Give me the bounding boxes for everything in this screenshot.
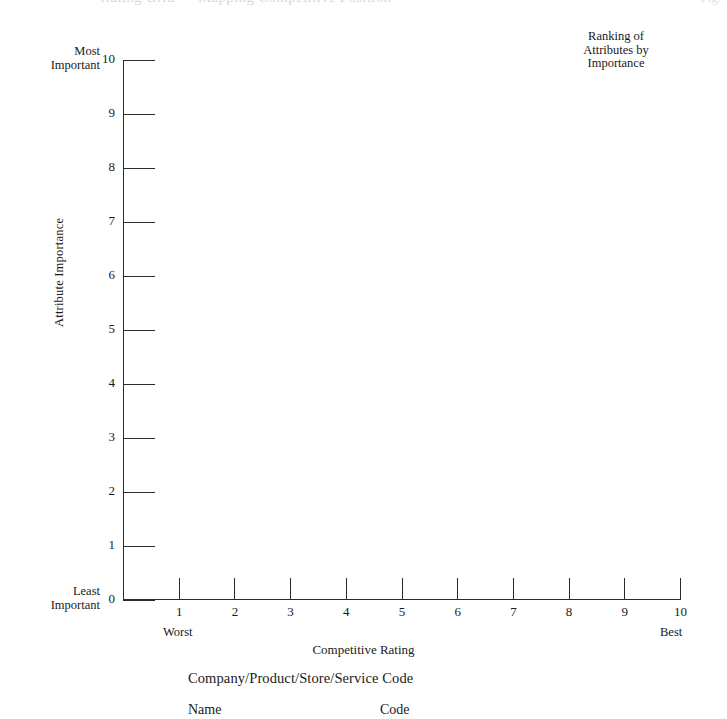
y-tick-label-3: 3 <box>109 429 116 445</box>
code-table-heading: Company/Product/Store/Service Code <box>188 670 413 687</box>
y-caption-least-line-1: Least <box>0 584 100 598</box>
x-axis-title: Competitive Rating <box>0 642 727 658</box>
code-table-column-code: Code <box>380 702 410 718</box>
y-tick-4: 4 <box>123 384 155 385</box>
y-tick-10: 10 <box>123 60 155 61</box>
worksheet-page: Rating Grid — Mapping Competitive Positi… <box>0 0 727 719</box>
y-caption-most-line-2: Important <box>0 58 100 72</box>
y-tick-2: 2 <box>123 492 155 493</box>
x-tick-5: 5 <box>402 578 403 600</box>
plot-area[interactable]: 012345678910 12345678910 <box>123 60 680 600</box>
y-tick-1: 1 <box>123 546 155 547</box>
x-tick-6: 6 <box>457 578 458 600</box>
y-tick-label-2: 2 <box>109 483 116 499</box>
x-tick-4: 4 <box>346 578 347 600</box>
y-axis-caption-most-important: Most Important <box>0 44 100 72</box>
x-tick-label-10: 10 <box>674 604 687 619</box>
y-tick-9: 9 <box>123 114 155 115</box>
x-tick-7: 7 <box>513 578 514 600</box>
x-tick-label-7: 7 <box>510 604 517 619</box>
y-tick-label-8: 8 <box>109 159 116 175</box>
y-tick-6: 6 <box>123 276 155 277</box>
x-tick-label-6: 6 <box>454 604 461 619</box>
code-table-column-name: Name <box>188 702 221 718</box>
y-tick-8: 8 <box>123 168 155 169</box>
y-caption-most-line-1: Most <box>0 44 100 58</box>
x-axis-caption-best: Best <box>660 625 682 640</box>
y-tick-label-6: 6 <box>109 267 116 283</box>
y-axis-caption-least-important: Least Important <box>0 584 100 612</box>
x-tick-8: 8 <box>569 578 570 600</box>
x-tick-label-2: 2 <box>232 604 239 619</box>
x-tick-label-4: 4 <box>343 604 350 619</box>
y-tick-label-7: 7 <box>109 213 116 229</box>
x-tick-10: 10 <box>680 578 681 600</box>
y-tick-3: 3 <box>123 438 155 439</box>
x-tick-9: 9 <box>624 578 625 600</box>
y-tick-label-4: 4 <box>109 375 116 391</box>
top-cutoff-text-right: Fig. <box>700 0 721 6</box>
x-tick-label-3: 3 <box>287 604 294 619</box>
y-tick-7: 7 <box>123 222 155 223</box>
x-tick-2: 2 <box>234 578 235 600</box>
x-tick-1: 1 <box>179 578 180 600</box>
x-tick-label-9: 9 <box>622 604 629 619</box>
y-tick-0: 0 <box>123 600 155 601</box>
y-tick-label-10: 10 <box>102 51 115 67</box>
top-cutoff-text: Rating Grid — Mapping Competitive Positi… <box>100 0 660 7</box>
y-tick-5: 5 <box>123 330 155 331</box>
y-tick-label-1: 1 <box>109 537 116 553</box>
x-tick-label-5: 5 <box>399 604 406 619</box>
y-axis-title: Attribute Importance <box>52 177 67 327</box>
y-tick-label-5: 5 <box>109 321 116 337</box>
chart-title-line-1: Ranking of <box>546 30 686 44</box>
x-tick-label-8: 8 <box>566 604 573 619</box>
chart-title-line-2: Attributes by <box>546 44 686 58</box>
x-tick-label-1: 1 <box>176 604 183 619</box>
y-tick-label-9: 9 <box>109 105 116 121</box>
y-caption-least-line-2: Important <box>0 598 100 612</box>
y-tick-label-0: 0 <box>109 591 116 607</box>
x-tick-3: 3 <box>290 578 291 600</box>
x-axis-caption-worst: Worst <box>163 625 193 640</box>
